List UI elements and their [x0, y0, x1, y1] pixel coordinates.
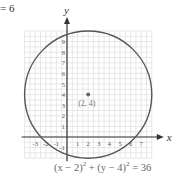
eq-part-3: = 36: [130, 162, 152, 173]
x-tick-label: 4: [108, 140, 112, 147]
eq-part-2: + (y − 4): [86, 162, 126, 173]
circle-equation: (x − 2)2 + (y − 4)2 = 36: [54, 160, 151, 173]
x-tick-label: 3: [97, 140, 100, 147]
center-point-label: (2, 4): [78, 99, 96, 108]
eq-part-1: (x − 2): [54, 162, 83, 173]
y-tick-label: 3: [62, 102, 65, 109]
x-tick-label: -1: [54, 140, 59, 147]
y-tick-label: 1: [62, 123, 65, 130]
x-axis-arrow-icon: [157, 134, 164, 140]
x-tick-label: 1: [76, 140, 79, 147]
x-tick-label: 5: [118, 140, 121, 147]
y-tick-label: -1: [60, 144, 65, 151]
x-tick-label: -3: [32, 140, 37, 147]
x-tick-label: 7: [140, 140, 144, 147]
x-tick-label: 2: [87, 140, 90, 147]
y-tick-label: 8: [62, 49, 65, 56]
y-axis-arrow-icon: [64, 17, 70, 24]
center-point: [86, 93, 90, 97]
y-tick-label: 9: [62, 38, 65, 45]
y-tick-label: 5: [62, 81, 65, 88]
x-axis-label: x: [166, 131, 172, 143]
y-axis-label: y: [63, 4, 69, 16]
y-tick-label: 2: [62, 112, 65, 119]
circle-graph: xy-3-2-11234567-1123456789(2, 4): [0, 0, 180, 181]
